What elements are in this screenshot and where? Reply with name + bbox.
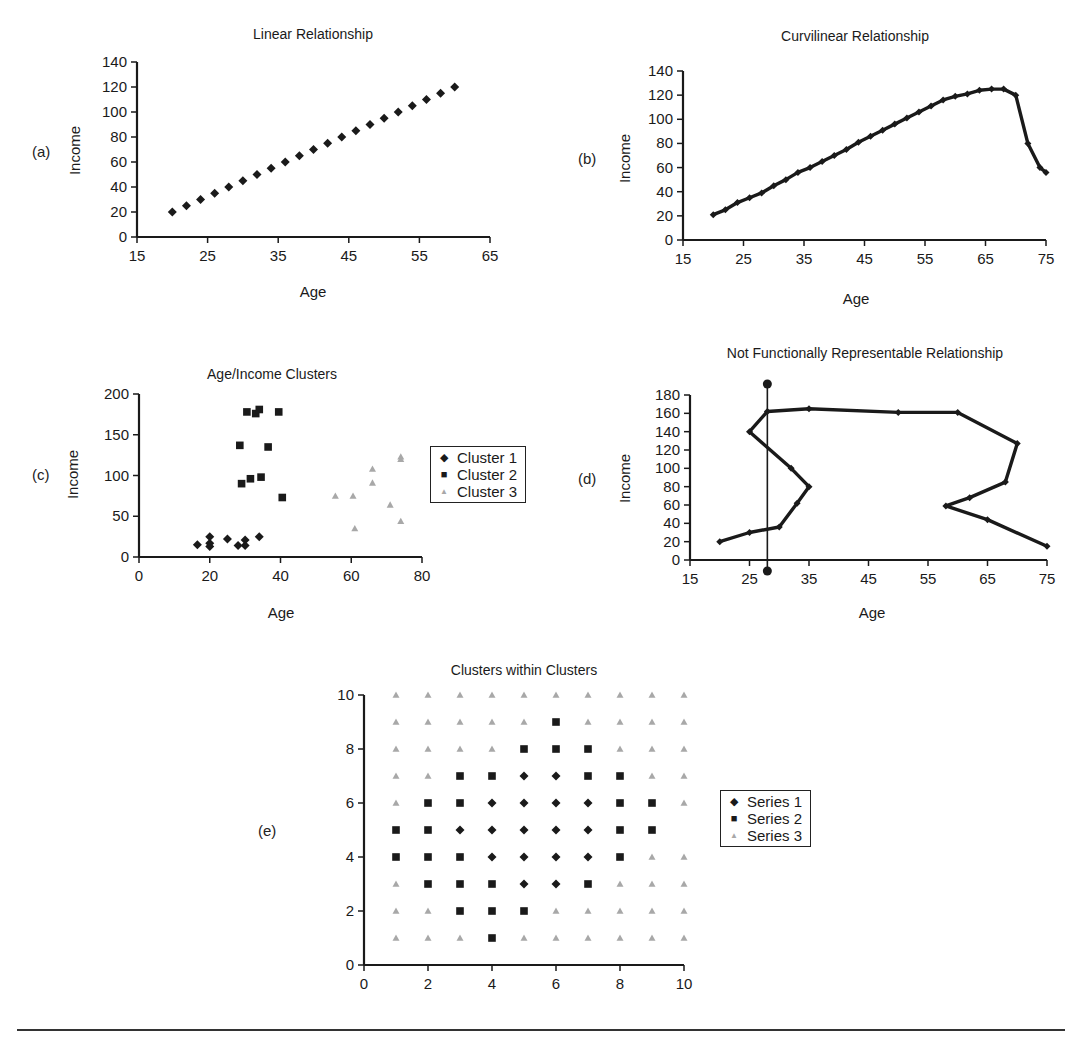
- data-point: [648, 826, 656, 834]
- data-point: [424, 880, 432, 888]
- data-point: [681, 773, 688, 779]
- data-point: [521, 935, 528, 941]
- data-point: [393, 692, 400, 698]
- data-point: [552, 799, 561, 808]
- data-point: [425, 908, 432, 914]
- legend: ◆ Series 1 ■ Series 2 ▲ Series 3: [720, 790, 811, 847]
- data-point: [616, 772, 624, 780]
- legend-item: ■ Series 2: [727, 810, 802, 827]
- data-point: [425, 746, 432, 752]
- data-point: [457, 692, 464, 698]
- data-point: [456, 826, 465, 835]
- data-point: [457, 935, 464, 941]
- data-point: [393, 773, 400, 779]
- data-point: [488, 853, 497, 862]
- data-point: [393, 800, 400, 806]
- data-point: [425, 719, 432, 725]
- data-point: [488, 772, 496, 780]
- data-point: [520, 745, 528, 753]
- data-point: [585, 935, 592, 941]
- data-point: [584, 772, 592, 780]
- data-point: [552, 826, 561, 835]
- horizontal-rule: [17, 1029, 1065, 1031]
- data-point: [520, 772, 529, 781]
- data-point: [681, 746, 688, 752]
- data-point: [393, 908, 400, 914]
- data-point: [617, 881, 624, 887]
- x-tick-label: 6: [552, 975, 560, 992]
- data-point: [457, 719, 464, 725]
- x-tick-label: 2: [424, 975, 432, 992]
- data-point: [521, 719, 528, 725]
- data-point: [456, 880, 464, 888]
- data-point: [584, 853, 593, 862]
- legend-label: Series 3: [747, 827, 802, 844]
- data-point: [649, 692, 656, 698]
- data-point: [521, 692, 528, 698]
- data-point: [488, 799, 497, 808]
- data-point: [520, 853, 529, 862]
- data-point: [488, 826, 497, 835]
- data-point: [457, 746, 464, 752]
- data-point: [681, 719, 688, 725]
- data-point: [649, 854, 656, 860]
- x-tick-label: 4: [488, 975, 496, 992]
- data-point: [617, 908, 624, 914]
- data-point: [553, 935, 560, 941]
- data-point: [617, 935, 624, 941]
- chart-panel-e: (e) Clusters within Clusters 02468100246…: [0, 0, 1081, 1020]
- data-point: [649, 881, 656, 887]
- data-point: [425, 935, 432, 941]
- data-point: [584, 799, 593, 808]
- data-point: [584, 826, 593, 835]
- data-point: [681, 800, 688, 806]
- data-point: [393, 935, 400, 941]
- data-point: [649, 719, 656, 725]
- y-tick-label: 6: [346, 794, 354, 811]
- data-point: [520, 907, 528, 915]
- data-point: [552, 718, 560, 726]
- x-tick-label: 8: [616, 975, 624, 992]
- data-point: [425, 692, 432, 698]
- data-point: [456, 799, 464, 807]
- data-point: [553, 908, 560, 914]
- data-point: [456, 907, 464, 915]
- data-point: [553, 692, 560, 698]
- data-point: [585, 719, 592, 725]
- data-point: [617, 719, 624, 725]
- data-point: [425, 773, 432, 779]
- data-point: [681, 854, 688, 860]
- y-tick-label: 4: [346, 848, 354, 865]
- data-point: [424, 799, 432, 807]
- data-point: [489, 746, 496, 752]
- data-point: [649, 746, 656, 752]
- data-point: [681, 908, 688, 914]
- data-point: [552, 772, 561, 781]
- data-point: [456, 772, 464, 780]
- data-point: [616, 826, 624, 834]
- data-point: [617, 692, 624, 698]
- data-point: [393, 746, 400, 752]
- data-point: [649, 773, 656, 779]
- data-point: [552, 880, 561, 889]
- data-point: [489, 719, 496, 725]
- plot-area: 02468100246810: [0, 0, 1081, 1020]
- legend-label: Series 2: [747, 810, 802, 827]
- diamond-marker-icon: ◆: [727, 793, 741, 810]
- data-point: [681, 881, 688, 887]
- triangle-marker-icon: ▲: [727, 827, 741, 844]
- legend-item: ◆ Series 1: [727, 793, 802, 810]
- data-point: [617, 746, 624, 752]
- data-point: [584, 880, 592, 888]
- data-point: [649, 935, 656, 941]
- data-point: [393, 719, 400, 725]
- y-tick-label: 0: [346, 956, 354, 973]
- data-point: [392, 853, 400, 861]
- data-point: [616, 853, 624, 861]
- data-point: [649, 908, 656, 914]
- data-point: [393, 881, 400, 887]
- data-point: [681, 692, 688, 698]
- data-point: [488, 934, 496, 942]
- data-point: [520, 826, 529, 835]
- legend-item: ▲ Series 3: [727, 827, 802, 844]
